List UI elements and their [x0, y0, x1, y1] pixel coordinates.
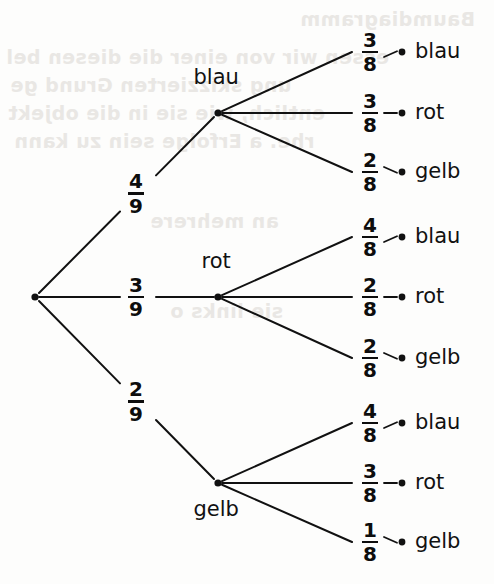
level1-probability-fraction: 29 [128, 379, 144, 424]
level1-node-label: rot [202, 249, 231, 273]
level2-probability-fraction: 38 [362, 91, 378, 136]
fraction-denominator: 9 [128, 298, 144, 319]
fraction-numerator: 4 [362, 401, 378, 422]
leaf-node-dot [399, 480, 406, 487]
level2-branch-line [222, 52, 352, 111]
root-node-dot [31, 293, 38, 300]
level2-probability-fraction: 28 [362, 275, 378, 320]
leaf-label: blau [415, 39, 460, 63]
fraction-numerator: 2 [362, 150, 378, 171]
leaf-connector-stub [384, 537, 397, 543]
fraction-denominator: 8 [362, 114, 378, 135]
fraction-numerator: 2 [128, 379, 144, 400]
level1-node-label: blau [194, 65, 239, 89]
leaf-label: blau [415, 410, 460, 434]
leaf-node-dot [399, 420, 406, 427]
fraction-denominator: 8 [362, 543, 378, 564]
leaf-node-dot [399, 294, 406, 301]
fraction-denominator: 8 [362, 484, 378, 505]
fraction-numerator: 4 [128, 171, 144, 192]
fraction-denominator: 8 [362, 298, 378, 319]
leaf-node-dot [399, 49, 406, 56]
fraction-numerator: 1 [362, 520, 378, 541]
leaf-node-dot [399, 169, 406, 176]
leaf-node-dot [399, 110, 406, 117]
level1-branch-segment-b [156, 420, 214, 479]
level2-branch-line [222, 237, 352, 295]
fraction-denominator: 9 [128, 195, 144, 216]
level1-node-dot [214, 293, 221, 300]
fraction-numerator: 3 [362, 30, 378, 51]
leaf-label: rot [415, 284, 444, 308]
level2-branch-line [222, 423, 352, 481]
leaf-node-dot [399, 539, 406, 546]
level1-node-dot [214, 109, 221, 116]
level1-branch-segment-a [39, 301, 120, 383]
level1-branch-segment-a [39, 212, 120, 293]
level1-probability-fraction: 49 [128, 171, 144, 216]
baumdiagramm-figure: Baumdiagrammessen wir von einer die dies… [0, 0, 494, 584]
level2-probability-fraction: 28 [362, 336, 378, 381]
fraction-numerator: 2 [362, 336, 378, 357]
leaf-node-dot [399, 355, 406, 362]
fraction-denominator: 8 [362, 359, 378, 380]
fraction-denominator: 8 [362, 424, 378, 445]
fraction-numerator: 2 [362, 275, 378, 296]
level1-probability-fraction: 39 [128, 275, 144, 320]
leaf-connector-stub [384, 51, 397, 57]
level2-probability-fraction: 48 [362, 401, 378, 446]
fraction-numerator: 3 [362, 461, 378, 482]
leaf-node-dot [399, 234, 406, 241]
fraction-numerator: 4 [362, 215, 378, 236]
fraction-numerator: 3 [362, 91, 378, 112]
leaf-label: rot [415, 470, 444, 494]
fraction-denominator: 9 [128, 403, 144, 424]
leaf-connector-stub [384, 236, 397, 242]
leaf-label: blau [415, 224, 460, 248]
level2-probability-fraction: 38 [362, 461, 378, 506]
leaf-label: rot [415, 100, 444, 124]
fraction-denominator: 8 [362, 173, 378, 194]
leaf-label: gelb [415, 529, 460, 553]
fraction-denominator: 8 [362, 238, 378, 259]
level1-node-dot [214, 479, 221, 486]
level1-node-label: gelb [194, 497, 239, 521]
level2-probability-fraction: 48 [362, 215, 378, 260]
leaf-connector-stub [384, 167, 397, 173]
leaf-label: gelb [415, 159, 460, 183]
level2-branch-line [222, 299, 352, 358]
level2-branch-line [222, 485, 352, 542]
level2-probability-fraction: 18 [362, 520, 378, 565]
level2-branch-line [222, 115, 352, 172]
leaf-connector-stub [384, 353, 397, 359]
level2-probability-fraction: 38 [362, 30, 378, 75]
level1-branch-segment-b [156, 117, 214, 175]
fraction-numerator: 3 [128, 275, 144, 296]
leaf-connector-stub [384, 422, 397, 428]
level2-probability-fraction: 28 [362, 150, 378, 195]
fraction-denominator: 8 [362, 53, 378, 74]
leaf-label: gelb [415, 345, 460, 369]
